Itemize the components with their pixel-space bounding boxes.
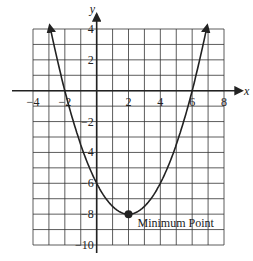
x-axis-label: x xyxy=(243,84,250,98)
y-tick-label: −6 xyxy=(81,176,94,190)
y-tick-label: −10 xyxy=(75,238,94,252)
x-tick-label: 2 xyxy=(126,95,132,109)
parabola-chart: xy−4−2246842−2−4−6−8−10 Minimum Point xyxy=(0,0,253,261)
y-tick-label: 4 xyxy=(88,22,94,36)
y-tick-label: −2 xyxy=(81,115,94,129)
x-tick-label: −4 xyxy=(27,95,40,109)
x-tick-label: 8 xyxy=(221,95,227,109)
y-axis-label: y xyxy=(89,2,96,16)
minimum-point-marker xyxy=(125,210,133,218)
y-tick-label: 2 xyxy=(88,53,94,67)
x-tick-label: 4 xyxy=(157,95,163,109)
minimum-point-label: Minimum Point xyxy=(138,216,215,230)
y-tick-label: −8 xyxy=(81,207,94,221)
